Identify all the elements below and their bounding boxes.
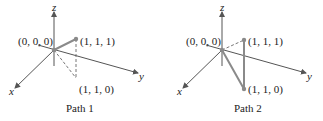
label-110: (1, 1, 0): [248, 83, 283, 96]
y-axis-label: y: [138, 70, 144, 82]
label-111: (1, 1, 1): [80, 35, 115, 48]
x-axis-label: x: [8, 85, 14, 97]
caption-path-1: Path 1: [66, 102, 94, 114]
label-110: (1, 1, 0): [79, 83, 114, 96]
path-diagrams: z y x (0, 0, 0) (1, 1, 1) (1, 1, 0) Path…: [0, 0, 323, 121]
diagram-path-1: z y x (0, 0, 0) (1, 1, 1) (1, 1, 0) Path…: [8, 1, 144, 114]
point-111: [74, 37, 78, 41]
segment-origin-to-111: [54, 39, 76, 50]
diagram-path-2: z y x (0, 0, 0) (1, 1, 1) (1, 1, 0) Path…: [176, 1, 312, 114]
z-axis-label: z: [51, 1, 57, 13]
y-axis-label: y: [306, 70, 312, 82]
label-origin: (0, 0, 0): [18, 35, 53, 48]
segment-origin-to-110: [222, 50, 244, 89]
x-axis: [183, 50, 222, 88]
caption-path-2: Path 2: [234, 102, 262, 114]
x-axis-label: x: [176, 85, 182, 97]
point-111: [242, 38, 246, 42]
label-origin: (0, 0, 0): [186, 35, 221, 48]
z-axis-label: z: [219, 1, 225, 13]
x-axis: [15, 50, 54, 88]
point-origin: [52, 48, 56, 52]
point-origin: [220, 48, 224, 52]
segment-origin-to-111: [222, 40, 244, 50]
label-111: (1, 1, 1): [248, 35, 283, 48]
point-110: [242, 87, 246, 91]
